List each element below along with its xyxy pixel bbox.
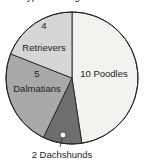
- label-poodles: 10 Poodles: [80, 68, 128, 79]
- label-dachshunds: 2 Dachshunds: [32, 149, 93, 160]
- label-dalmatians-name: Dalmatians: [13, 83, 61, 94]
- label-retrievers-count: 4: [41, 20, 46, 31]
- label-dalmatians-count: 5: [34, 68, 39, 79]
- dachshunds-marker: [60, 132, 66, 138]
- label-retrievers-name: Retrievers: [22, 42, 66, 53]
- pie-chart: 10 Poodles 4 Retrievers 5 Dalmatians 2 D…: [0, 0, 145, 163]
